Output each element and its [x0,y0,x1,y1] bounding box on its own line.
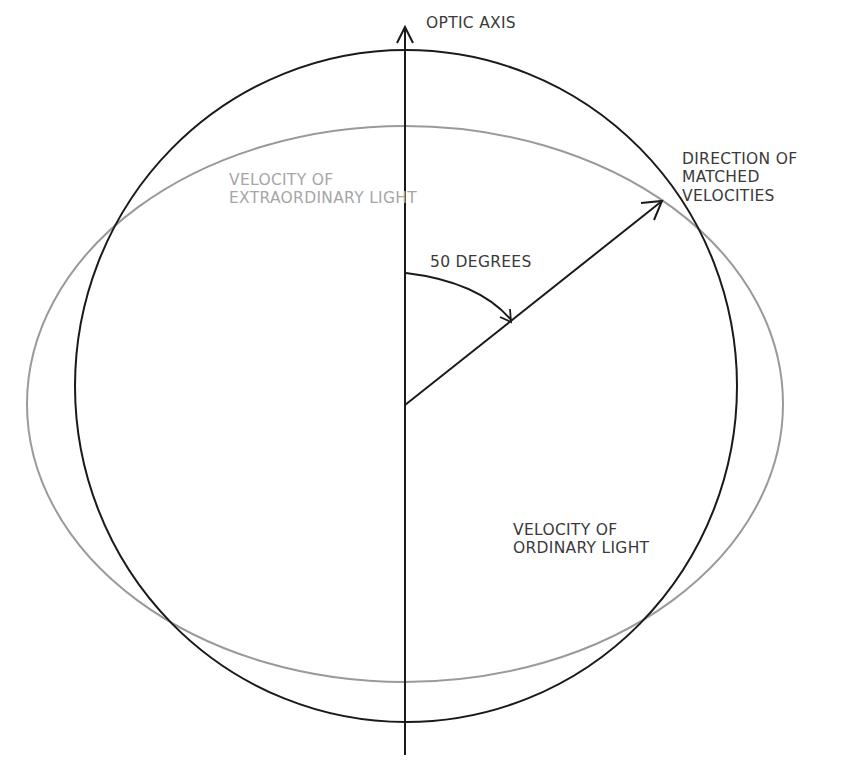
ordinary-label-line1: VELOCITY OF [513,521,617,539]
matched-label-line2: MATCHED [682,168,760,186]
birefringence-diagram [0,0,842,780]
angle-arc [406,273,512,321]
ordinary-label-line2: ORDINARY LIGHT [513,539,649,557]
matched-direction-vector [405,201,662,405]
matched-label-line3: VELOCITIES [682,187,775,205]
matched-label-line1: DIRECTION OF [682,150,797,168]
optic-axis-label: OPTIC AXIS [426,14,516,32]
angle-label: 50 DEGREES [430,253,532,271]
extraordinary-label-line2: EXTRAORDINARY LIGHT [229,189,417,207]
extraordinary-label-line1: VELOCITY OF [229,171,333,189]
